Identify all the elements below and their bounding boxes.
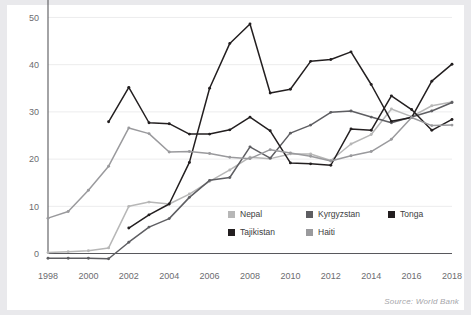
data-point-tonga: [168, 122, 171, 125]
data-point-kyrgyzstan: [309, 124, 312, 127]
legend-swatch-icon: [228, 211, 235, 218]
legend-item-tajikistan[interactable]: Tajikistan: [228, 223, 306, 241]
series-line-tonga: [109, 87, 452, 165]
data-point-haiti: [208, 152, 211, 155]
data-point-tajikistan: [269, 92, 272, 95]
legend-item-kyrgyzstan[interactable]: Kyrgyzstan: [306, 205, 388, 223]
data-point-nepal: [47, 251, 50, 254]
legend-swatch-icon: [228, 229, 235, 236]
data-point-nepal: [228, 169, 231, 172]
data-point-tajikistan: [228, 42, 231, 45]
legend-swatch-icon: [388, 211, 395, 218]
data-point-tonga: [127, 86, 130, 89]
svg-text:2006: 2006: [200, 271, 220, 281]
svg-text:20: 20: [29, 154, 39, 164]
legend-label: Tajikistan: [240, 227, 275, 237]
data-point-haiti: [329, 160, 332, 163]
data-point-tajikistan: [390, 120, 393, 123]
data-point-tonga: [269, 129, 272, 132]
data-point-tajikistan: [188, 161, 191, 164]
data-point-haiti: [430, 124, 433, 127]
data-point-haiti: [87, 189, 90, 192]
legend-item-haiti[interactable]: Haiti: [306, 223, 388, 241]
data-point-tajikistan: [329, 58, 332, 61]
chart-container: 01020304050 1998200020022004200620082010…: [0, 0, 471, 315]
series-line-haiti: [48, 118, 452, 219]
data-point-kyrgyzstan: [208, 179, 211, 182]
data-point-nepal: [188, 193, 191, 196]
chart-legend: NepalKyrgyzstanTongaTajikistanHaiti: [228, 205, 443, 241]
data-point-tonga: [228, 128, 231, 131]
x-axis-tick-labels: 1998200020022004200620082010201220142016…: [38, 271, 462, 281]
data-point-tonga: [350, 127, 353, 130]
data-point-kyrgyzstan: [249, 145, 252, 148]
data-point-haiti: [350, 154, 353, 157]
data-point-haiti: [47, 217, 50, 220]
data-point-kyrgyzstan: [269, 157, 272, 160]
svg-text:2004: 2004: [159, 271, 179, 281]
legend-item-tonga[interactable]: Tonga: [388, 205, 443, 223]
svg-text:1998: 1998: [38, 271, 58, 281]
line-chart-plot: 01020304050 1998200020022004200620082010…: [0, 0, 471, 315]
svg-text:2008: 2008: [240, 271, 260, 281]
data-point-tajikistan: [208, 87, 211, 90]
svg-text:10: 10: [29, 202, 39, 212]
data-point-kyrgyzstan: [451, 101, 454, 104]
data-point-nepal: [350, 143, 353, 146]
legend-item-nepal[interactable]: Nepal: [228, 205, 306, 223]
data-point-haiti: [168, 151, 171, 154]
data-point-haiti: [370, 150, 373, 153]
data-point-tajikistan: [309, 60, 312, 63]
data-point-kyrgyzstan: [350, 109, 353, 112]
legend-label: Kyrgyzstan: [318, 209, 360, 219]
data-point-tonga: [390, 94, 393, 97]
svg-text:2000: 2000: [78, 271, 98, 281]
legend-swatch-icon: [306, 211, 313, 218]
data-point-tajikistan: [148, 213, 151, 216]
legend-label: Haiti: [318, 227, 335, 237]
data-point-tonga: [188, 133, 191, 136]
source-attribution: Source: World Bank: [384, 297, 459, 306]
y-axis-tick-labels: 01020304050: [29, 13, 39, 259]
svg-text:30: 30: [29, 107, 39, 117]
data-point-kyrgyzstan: [168, 217, 171, 220]
data-point-tajikistan: [289, 88, 292, 91]
data-point-kyrgyzstan: [430, 109, 433, 112]
data-point-haiti: [390, 138, 393, 141]
data-point-haiti: [410, 116, 413, 119]
legend-label: Tonga: [400, 209, 423, 219]
data-point-haiti: [249, 157, 252, 160]
data-point-tonga: [309, 162, 312, 165]
data-point-haiti: [451, 124, 454, 127]
data-point-kyrgyzstan: [87, 257, 90, 260]
data-point-kyrgyzstan: [188, 196, 191, 199]
data-point-haiti: [188, 150, 191, 153]
data-point-tajikistan: [370, 83, 373, 86]
data-point-kyrgyzstan: [67, 257, 70, 260]
data-point-nepal: [87, 249, 90, 252]
data-point-tajikistan: [127, 227, 130, 230]
data-point-tajikistan: [451, 63, 454, 66]
data-point-tonga: [410, 108, 413, 111]
data-point-kyrgyzstan: [289, 132, 292, 135]
data-point-haiti: [289, 152, 292, 155]
svg-text:2014: 2014: [361, 271, 381, 281]
data-point-tonga: [329, 164, 332, 167]
legend-label: Nepal: [240, 209, 262, 219]
svg-text:40: 40: [29, 60, 39, 70]
data-point-haiti: [228, 156, 231, 159]
data-point-tajikistan: [168, 203, 171, 206]
data-point-tajikistan: [249, 23, 252, 26]
data-point-kyrgyzstan: [228, 176, 231, 179]
data-point-haiti: [107, 165, 110, 168]
data-point-nepal: [370, 133, 373, 136]
data-point-kyrgyzstan: [127, 241, 130, 244]
data-point-haiti: [148, 132, 151, 135]
data-point-tajikistan: [430, 80, 433, 83]
data-point-nepal: [390, 108, 393, 111]
data-point-tonga: [107, 120, 110, 123]
data-point-tonga: [370, 129, 373, 132]
svg-text:50: 50: [29, 13, 39, 23]
data-point-kyrgyzstan: [329, 111, 332, 114]
svg-text:2016: 2016: [402, 271, 422, 281]
